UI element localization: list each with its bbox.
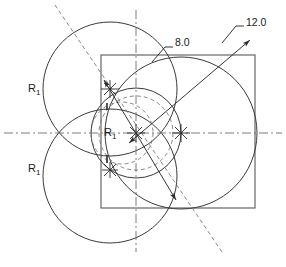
radius-label-upper-left-sub: 1 [36,88,40,97]
center-mark-origin [127,124,145,142]
center-mark-lower [102,162,118,178]
radius-label-lower-left-text: R [28,162,36,174]
center-mark-right [172,124,190,142]
radius-label-lower-left-sub: 1 [36,168,40,177]
radius-label-lower-left: R1 [28,163,40,177]
bounding-square [101,55,255,208]
radius-label-upper-left: R1 [28,83,40,97]
dim-leader-12 [222,26,244,43]
dimension-label-8: 8.0 [175,37,190,48]
technical-drawing-svg [0,0,286,267]
radius-label-center: R1 [104,127,116,141]
radius-label-center-text: R [104,126,112,138]
radius-label-upper-left-text: R [28,82,36,94]
radius-label-center-sub: 1 [112,132,116,141]
diagonal-construction-line [55,5,222,252]
dimension-label-12: 12.0 [246,17,266,28]
drawing-canvas: R1 R1 R1 8.0 12.0 [0,0,286,267]
center-mark-upper [101,80,119,98]
